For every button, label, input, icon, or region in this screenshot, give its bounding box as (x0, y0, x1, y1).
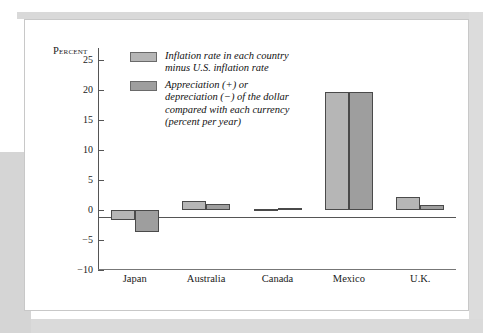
y-axis-tick-mark (98, 150, 104, 151)
y-axis-line (98, 48, 99, 269)
y-axis-tick-label: 25 (55, 55, 93, 65)
bar-uk-series2 (420, 205, 444, 210)
legend-swatch-series1 (130, 52, 157, 62)
y-axis-tick-mark (98, 210, 104, 211)
chart-figure-panel: Percent 2520151050−5−10 JapanAustraliaCa… (24, 19, 469, 311)
legend-item-series1: Inflation rate in each country minus U.S… (130, 50, 370, 75)
legend-label-series1: Inflation rate in each country minus U.S… (165, 50, 289, 75)
y-axis-tick-mark (98, 270, 104, 271)
bar-canada-series1 (254, 209, 278, 211)
chart-legend: Inflation rate in each country minus U.S… (130, 50, 370, 132)
y-axis-tick-label: 15 (55, 115, 93, 125)
y-axis-tick-mark (98, 240, 104, 241)
chart-plot-container: Percent 2520151050−5−10 JapanAustraliaCa… (25, 20, 468, 310)
page-margin-bottom (31, 319, 483, 333)
legend-label-series2: Appreciation (+) or depreciation (−) of … (165, 79, 289, 129)
y-axis-tick-label: −5 (55, 235, 93, 245)
bar-uk-series1 (396, 197, 420, 210)
bar-australia-series1 (182, 201, 206, 210)
y-axis-tick-label: 0 (55, 205, 93, 215)
bar-canada-series2 (278, 208, 302, 210)
y-axis-tick-mark (98, 180, 104, 181)
page-margin-right (469, 12, 483, 333)
bar-japan-series2 (135, 210, 159, 232)
x-axis-label-uk: U.K. (370, 273, 470, 284)
y-axis-tick-label: 5 (55, 175, 93, 185)
y-axis-tick-mark (98, 60, 104, 61)
y-axis-tick-label: 20 (55, 85, 93, 95)
bar-australia-series2 (206, 204, 230, 210)
page-margin-top (17, 12, 483, 19)
bar-japan-series1 (111, 210, 135, 220)
legend-item-series2: Appreciation (+) or depreciation (−) of … (130, 79, 370, 129)
y-axis-tick-label: 10 (55, 145, 93, 155)
y-axis-tick-mark (98, 120, 104, 121)
figure-root: Percent 2520151050−5−10 JapanAustraliaCa… (0, 0, 483, 333)
legend-swatch-series2 (130, 81, 157, 91)
x-axis-baseline (98, 269, 456, 270)
y-axis-tick-mark (98, 90, 104, 91)
